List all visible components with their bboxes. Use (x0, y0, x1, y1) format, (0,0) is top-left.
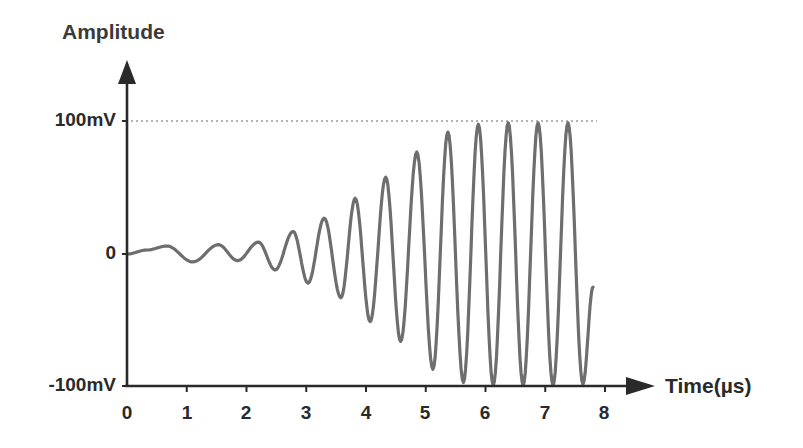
signal-line (127, 123, 593, 385)
x-tick-label-5: 5 (410, 402, 440, 424)
x-tick-label-2: 2 (231, 402, 261, 424)
x-tick-label-8: 8 (589, 402, 619, 424)
y-tick-label-neg100mv: -100mV (6, 374, 116, 396)
y-tick-label-0: 0 (6, 242, 116, 264)
x-tick-label-7: 7 (530, 402, 560, 424)
x-tick-label-3: 3 (291, 402, 321, 424)
x-axis-title: Time(µs) (665, 374, 751, 398)
y-tick-label-100mv: 100mV (6, 109, 116, 131)
x-tick-label-0: 0 (112, 402, 142, 424)
x-tick-label-6: 6 (470, 402, 500, 424)
y-axis-title: Amplitude (62, 20, 165, 44)
y-axis-arrowhead-icon (118, 60, 136, 84)
x-tick-label-1: 1 (172, 402, 202, 424)
x-axis-arrowhead-icon (626, 377, 655, 395)
x-tick-label-4: 4 (351, 402, 381, 424)
